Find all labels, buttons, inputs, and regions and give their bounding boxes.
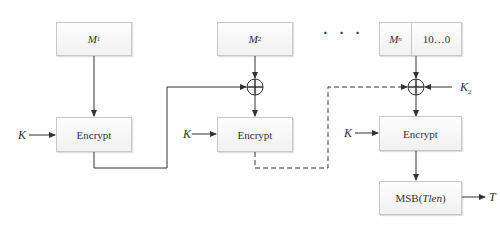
key-label-1: K bbox=[18, 129, 26, 141]
mn-label: M bbox=[389, 33, 398, 45]
message-block-mn: Mn bbox=[379, 22, 412, 56]
output-tag-label: T bbox=[489, 191, 496, 203]
key-label-2: K bbox=[183, 128, 191, 140]
m1-label: M bbox=[88, 33, 97, 45]
m1-subscript: 1 bbox=[97, 35, 101, 43]
xor-icon-1 bbox=[247, 79, 263, 95]
m2-subscript: 2 bbox=[258, 35, 262, 43]
encrypt-block-3: Encrypt bbox=[379, 116, 462, 151]
padding-block: 10…0 bbox=[411, 22, 462, 56]
m2-label: M bbox=[249, 33, 258, 45]
subkey-k: K bbox=[460, 80, 468, 94]
encrypt-block-2: Encrypt bbox=[217, 117, 293, 152]
encrypt-block-1: Encrypt bbox=[56, 117, 132, 152]
mn-subscript: n bbox=[398, 35, 402, 43]
subkey-label: K2 bbox=[460, 81, 472, 98]
ellipsis: · · · bbox=[323, 26, 364, 42]
message-block-m1: M1 bbox=[56, 22, 132, 56]
key-label-3: K bbox=[344, 127, 352, 139]
message-block-m2: M2 bbox=[217, 22, 293, 56]
xor-icon-2 bbox=[408, 79, 424, 95]
subkey-subscript: 2 bbox=[468, 88, 472, 96]
msb-prefix: MSB( bbox=[395, 192, 422, 204]
msb-arg: Tlen bbox=[422, 192, 442, 204]
msb-block: MSB(Tlen) bbox=[379, 181, 462, 215]
msb-suffix: ) bbox=[442, 192, 446, 204]
